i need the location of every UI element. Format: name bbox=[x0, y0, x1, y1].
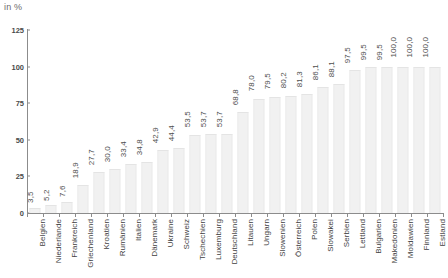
bar-slot: 78,0 bbox=[251, 30, 267, 213]
x-tick-mark bbox=[251, 213, 252, 217]
x-tick-mark bbox=[283, 213, 284, 217]
bar bbox=[45, 205, 56, 213]
bar-slot: 100,0 bbox=[427, 30, 443, 213]
x-category-label: Bulgarien bbox=[374, 219, 383, 254]
x-tick-mark bbox=[443, 213, 444, 217]
x-tick-mark bbox=[203, 213, 204, 217]
x-tick-mark bbox=[427, 213, 428, 217]
bar bbox=[93, 172, 104, 213]
bar-slot: 5,2 bbox=[43, 30, 59, 213]
bar bbox=[285, 96, 296, 213]
x-category-label: Luxemburg bbox=[214, 219, 223, 260]
x-category-label: Dänemark bbox=[150, 219, 159, 257]
bar bbox=[349, 70, 360, 213]
bar-slot: 18,9 bbox=[75, 30, 91, 213]
x-category-label: Makedonien bbox=[390, 219, 399, 264]
x-category-label: Italien bbox=[134, 219, 143, 241]
unit-label: in % bbox=[4, 2, 22, 12]
x-category-label: Tschechien bbox=[198, 219, 207, 260]
bar bbox=[381, 67, 392, 213]
bar bbox=[125, 164, 136, 213]
x-tick-mark bbox=[27, 213, 28, 217]
x-tick-mark bbox=[347, 213, 348, 217]
bar-value-label: 7,6 bbox=[59, 180, 76, 197]
x-category-label: Slowakei bbox=[326, 219, 335, 252]
bar bbox=[429, 67, 440, 213]
x-category-label: Österreich bbox=[294, 219, 303, 257]
x-tick-mark bbox=[363, 213, 364, 217]
x-tick-mark bbox=[123, 213, 124, 217]
bar bbox=[77, 185, 88, 213]
bar bbox=[301, 94, 312, 213]
x-tick-mark bbox=[43, 213, 44, 217]
bar-slot: 30,0 bbox=[107, 30, 123, 213]
x-category-label: Lettland bbox=[358, 219, 367, 248]
y-tick-label: 50 bbox=[16, 135, 24, 144]
x-category-label: Finnland bbox=[422, 219, 431, 251]
bar bbox=[141, 162, 152, 213]
bar-slot: 53,7 bbox=[219, 30, 235, 213]
x-tick-mark bbox=[331, 213, 332, 217]
x-tick-mark bbox=[219, 213, 220, 217]
x-category-label: Griechenland bbox=[86, 219, 95, 268]
bar bbox=[269, 97, 280, 213]
x-tick-mark bbox=[171, 213, 172, 217]
x-tick-mark bbox=[187, 213, 188, 217]
y-tick-label: 125 bbox=[11, 26, 24, 35]
bar bbox=[173, 148, 184, 213]
bar bbox=[237, 112, 248, 213]
bar-chart: in % 0255075100125 BelgienNiederlandeFra… bbox=[0, 0, 448, 278]
x-category-label: Frankreich bbox=[70, 219, 79, 258]
bar bbox=[189, 135, 200, 213]
bar-slot: 27,7 bbox=[91, 30, 107, 213]
bar-slot: 7,6 bbox=[59, 30, 75, 213]
x-tick-mark bbox=[235, 213, 236, 217]
x-category-label: Niederlande bbox=[54, 219, 63, 263]
x-category-label: Belgien bbox=[38, 219, 47, 246]
y-tick-label: 25 bbox=[16, 172, 24, 181]
bar-slot: 3,5 bbox=[27, 30, 43, 213]
x-tick-mark bbox=[75, 213, 76, 217]
x-tick-mark bbox=[59, 213, 60, 217]
x-tick-mark bbox=[267, 213, 268, 217]
x-tick-mark bbox=[91, 213, 92, 217]
y-tick-label: 100 bbox=[11, 62, 24, 71]
bar bbox=[365, 67, 376, 213]
x-category-label: Schweiz bbox=[182, 219, 191, 250]
bar bbox=[221, 134, 232, 213]
x-tick-mark bbox=[139, 213, 140, 217]
x-tick-mark bbox=[107, 213, 108, 217]
bar-slot: 33,4 bbox=[123, 30, 139, 213]
x-tick-mark bbox=[379, 213, 380, 217]
bar bbox=[253, 99, 264, 213]
plot-area: 3,55,27,618,927,730,033,434,842,944,453,… bbox=[27, 30, 443, 213]
x-category-label: Deutschland bbox=[230, 219, 239, 265]
y-tick-label: 75 bbox=[16, 99, 24, 108]
x-category-label: Serbien bbox=[342, 219, 351, 247]
bar bbox=[61, 202, 72, 213]
x-category-label: Moldawien bbox=[406, 219, 415, 258]
bar-value-label: 100,0 bbox=[422, 31, 448, 57]
bar-slot: 80,2 bbox=[283, 30, 299, 213]
bar-slot: 81,3 bbox=[299, 30, 315, 213]
x-tick-mark bbox=[395, 213, 396, 217]
x-category-label: Rumänien bbox=[118, 219, 127, 256]
x-tick-mark bbox=[155, 213, 156, 217]
x-tick-mark bbox=[299, 213, 300, 217]
bar bbox=[397, 67, 408, 213]
bar bbox=[157, 150, 168, 213]
bar bbox=[317, 87, 328, 213]
bar-slot: 79,5 bbox=[267, 30, 283, 213]
x-category-label: Ungarn bbox=[262, 219, 271, 246]
bar-slot: 68,8 bbox=[235, 30, 251, 213]
x-tick-mark bbox=[315, 213, 316, 217]
bar bbox=[333, 84, 344, 213]
x-category-label: Estland bbox=[438, 219, 447, 246]
x-category-label: Slowenien bbox=[278, 219, 287, 257]
bar bbox=[205, 134, 216, 213]
x-category-label: Kroatien bbox=[102, 219, 111, 250]
bar bbox=[29, 208, 40, 213]
bar bbox=[109, 169, 120, 213]
x-category-label: Polen bbox=[310, 219, 319, 240]
x-tick-mark bbox=[411, 213, 412, 217]
